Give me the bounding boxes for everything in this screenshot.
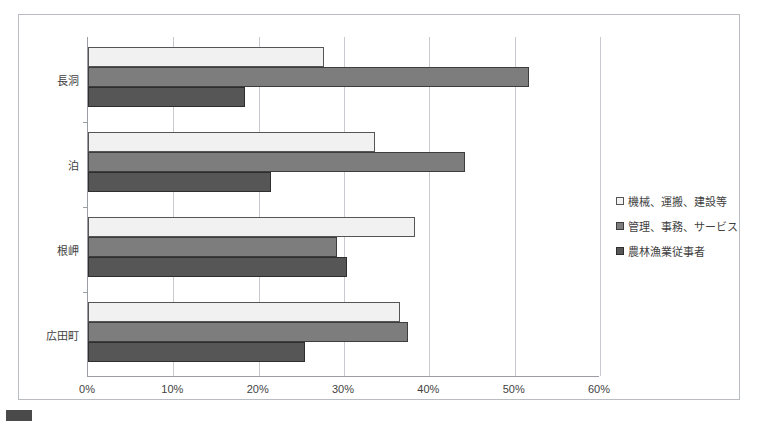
bar-fill	[88, 237, 337, 257]
bar	[88, 257, 347, 277]
y-axis-tick	[83, 292, 87, 293]
x-axis-tick-label: 30%	[313, 383, 373, 395]
legend-swatch-icon	[616, 197, 624, 205]
bar-fill	[88, 172, 271, 192]
caption-marker-icon	[6, 410, 32, 421]
legend-item: 機械、運搬、建設等	[616, 193, 746, 209]
bar	[88, 302, 400, 322]
legend-label: 農林漁業従事者	[628, 243, 705, 259]
bar	[88, 342, 305, 362]
x-axis-tick-label: 60%	[569, 383, 629, 395]
y-axis-category-label: 長洞	[27, 72, 79, 88]
bar-group	[88, 292, 599, 377]
chart-legend: 機械、運搬、建設等管理、事務、サービス農林漁業従事者	[616, 193, 746, 268]
bar-fill	[88, 132, 375, 152]
bar-fill	[88, 67, 529, 87]
caption-strip	[0, 409, 757, 421]
bar	[88, 132, 375, 152]
bar-fill	[88, 87, 245, 107]
bar-group	[88, 122, 599, 207]
bar	[88, 217, 415, 237]
x-gridline	[600, 37, 601, 376]
x-axis-tick-label: 40%	[398, 383, 458, 395]
bar-fill	[88, 322, 408, 342]
bar-fill	[88, 302, 400, 322]
bar-fill	[88, 152, 465, 172]
chart-frame: 機械、運搬、建設等管理、事務、サービス農林漁業従事者 0%10%20%30%40…	[18, 14, 740, 400]
legend-swatch-icon	[616, 247, 624, 255]
bar-group	[88, 37, 599, 122]
legend-label: 管理、事務、サービス	[628, 218, 738, 234]
bar	[88, 322, 408, 342]
bar-fill	[88, 217, 415, 237]
bar-group	[88, 207, 599, 292]
x-axis-tick-label: 0%	[57, 383, 117, 395]
bar-fill	[88, 47, 324, 67]
bar	[88, 67, 529, 87]
bar	[88, 152, 465, 172]
x-axis-tick-label: 50%	[484, 383, 544, 395]
y-axis-category-label: 泊	[27, 157, 79, 173]
plot-area	[87, 37, 599, 377]
y-axis-category-label: 根岬	[27, 242, 79, 258]
legend-swatch-icon	[616, 222, 624, 230]
y-axis-tick	[83, 122, 87, 123]
legend-label: 機械、運搬、建設等	[628, 193, 727, 209]
bar-fill	[88, 257, 347, 277]
legend-item: 農林漁業従事者	[616, 243, 746, 259]
bar	[88, 237, 337, 257]
legend-item: 管理、事務、サービス	[616, 218, 746, 234]
bar-fill	[88, 342, 305, 362]
y-axis-category-label: 広田町	[27, 327, 79, 343]
y-axis-tick	[83, 207, 87, 208]
x-axis-tick-label: 20%	[228, 383, 288, 395]
bar	[88, 87, 245, 107]
bar	[88, 47, 324, 67]
x-axis-tick-label: 10%	[142, 383, 202, 395]
bar	[88, 172, 271, 192]
